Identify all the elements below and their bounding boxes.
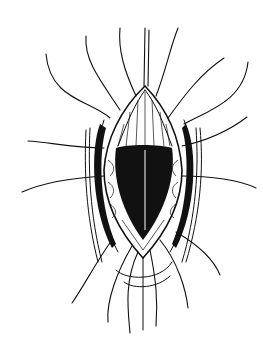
surgical-illustration xyxy=(0,0,274,356)
illustration-svg xyxy=(0,0,274,356)
incision xyxy=(104,86,182,258)
